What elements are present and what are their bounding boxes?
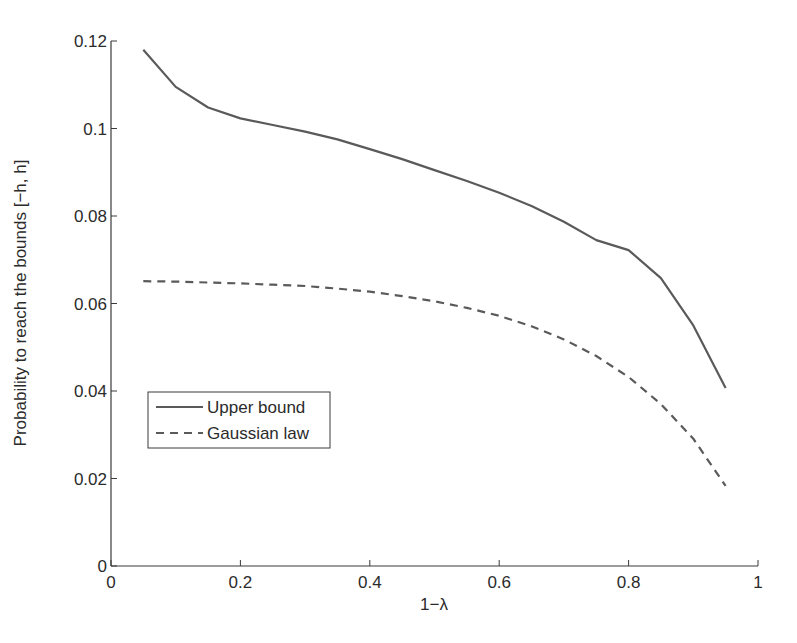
chart-figure: 00.20.40.60.81 00.020.040.060.080.10.12 …	[0, 0, 797, 643]
y-tick-label: 0.04	[74, 382, 107, 401]
x-tick-label: 0.6	[487, 573, 511, 592]
x-tick-label: 0	[106, 573, 115, 592]
x-tick-label: 0.8	[617, 573, 641, 592]
x-tick-label: 0.2	[229, 573, 253, 592]
legend: Upper bound Gaussian law	[148, 392, 330, 448]
x-axis-label: 1−λ	[420, 595, 448, 614]
series-gaussian-law-line	[143, 281, 725, 486]
x-tick-label: 1	[753, 573, 762, 592]
y-tick-label: 0.08	[74, 207, 107, 226]
legend-item-gaussian-law: Gaussian law	[207, 424, 310, 443]
y-tick-label: 0.02	[74, 470, 107, 489]
y-tick-label: 0.12	[74, 32, 107, 51]
y-tick-label: 0	[98, 557, 107, 576]
y-axis-label: Probability to reach the bounds [−h, h]	[11, 160, 30, 447]
y-tick-label: 0.06	[74, 295, 107, 314]
axes	[111, 41, 758, 566]
y-tick-label: 0.1	[83, 120, 107, 139]
legend-item-upper-bound: Upper bound	[207, 398, 305, 417]
x-tick-label: 0.4	[358, 573, 382, 592]
series-upper-bound-line	[143, 50, 725, 388]
x-axis-ticks: 00.20.40.60.81	[106, 560, 762, 592]
